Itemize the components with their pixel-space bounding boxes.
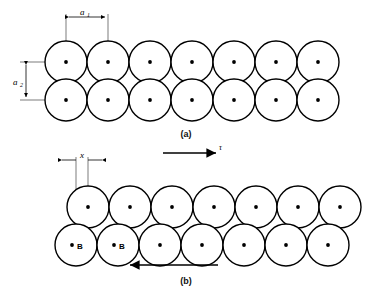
circle-center-dot <box>190 60 194 64</box>
circle-center-dot <box>70 243 74 247</box>
circle-center-dot <box>326 243 330 247</box>
circle-center-dot <box>190 98 194 102</box>
circle-center-dot <box>64 98 68 102</box>
dimension-label-a1: a <box>80 7 85 17</box>
circle-center-dot <box>274 60 278 64</box>
circle-center-dot <box>232 98 236 102</box>
figure-container: a 1 a 2 <box>0 0 372 293</box>
circle-center-dot <box>242 243 246 247</box>
circle-packing-figure: a 1 a 2 <box>0 0 372 293</box>
circle-center-dot <box>106 60 110 64</box>
panel-b-caption: (b) <box>180 276 192 286</box>
circle <box>55 224 97 266</box>
circle-center-dot <box>338 205 342 209</box>
circle-center-dot <box>296 205 300 209</box>
circle-center-dot <box>232 60 236 64</box>
circle-center-dot <box>254 205 258 209</box>
circle-center-dot <box>148 98 152 102</box>
circle-center-dot <box>128 205 132 209</box>
circle-center-dot <box>274 98 278 102</box>
circle-center-dot <box>316 98 320 102</box>
circle-center-dot <box>200 243 204 247</box>
circle-label-b-second: B <box>119 242 125 251</box>
circle-center-dot <box>212 205 216 209</box>
circle-center-dot <box>106 98 110 102</box>
panel-a-caption: (a) <box>181 129 192 139</box>
dimension-label-a2: a <box>13 77 18 87</box>
circle-center-dot <box>170 205 174 209</box>
circle-center-dot <box>148 60 152 64</box>
circle-center-dot <box>284 243 288 247</box>
circle <box>97 224 139 266</box>
dimension-label-a2-subscript: 2 <box>20 82 23 88</box>
circle-center-dot <box>64 60 68 64</box>
circle-label-b-first: B <box>77 242 83 251</box>
dimension-label-x: x <box>79 150 84 160</box>
circle-center-dot <box>112 243 116 247</box>
circle-center-dot <box>158 243 162 247</box>
circle-center-dot <box>86 205 90 209</box>
dimension-label-a1-subscript: 1 <box>87 12 90 18</box>
circle-center-dot <box>316 60 320 64</box>
